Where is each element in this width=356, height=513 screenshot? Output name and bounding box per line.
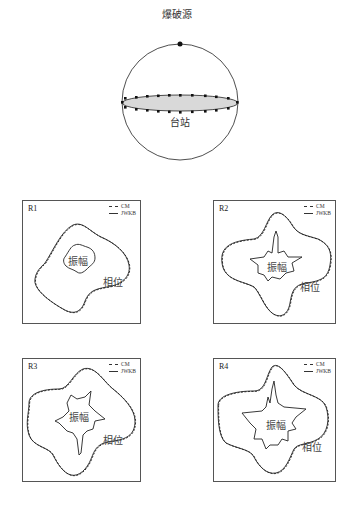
amplitude-label: 振幅 xyxy=(266,417,286,432)
source-dot xyxy=(178,42,183,47)
panel-r4: R4 CM JWKB 振幅 相位 xyxy=(213,358,336,482)
phase-label: 相位 xyxy=(103,274,123,289)
amplitude-label: 振幅 xyxy=(69,409,89,424)
amplitude-label: 振幅 xyxy=(68,253,88,268)
panel-r3: R3 CM JWKB 振幅 相位 xyxy=(22,358,141,482)
panel-r1: R1 CM JWKB 振幅 相位 xyxy=(22,200,141,324)
phase-label: 相位 xyxy=(300,279,320,294)
station-label: 台站 xyxy=(170,114,190,129)
panel-r2: R2 CM JWKB 振幅 相位 xyxy=(213,200,336,324)
phase-label: 相位 xyxy=(302,439,322,454)
sphere-diagram: 爆破源 xyxy=(110,0,250,165)
amplitude-label: 振幅 xyxy=(267,259,287,274)
phase-label: 相位 xyxy=(103,432,123,447)
sphere-graphic xyxy=(110,0,250,165)
